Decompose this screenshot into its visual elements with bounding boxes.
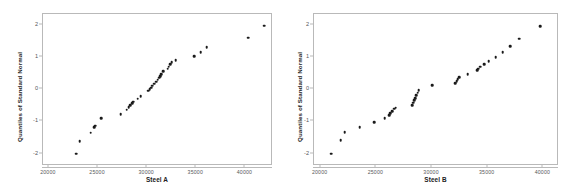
x-tick-label: 35000: [479, 169, 494, 175]
data-point: [119, 113, 122, 116]
qq-plot-figure: 2000025000300003500040000210-1-2Steel AQ…: [0, 0, 575, 194]
data-point: [413, 99, 416, 102]
y-tick-mark: [39, 55, 42, 56]
data-point: [373, 121, 376, 124]
y-tick-mark: [39, 152, 42, 153]
data-point: [417, 89, 420, 92]
data-point: [247, 37, 250, 40]
data-point: [412, 101, 415, 104]
x-tick-label: 40000: [237, 169, 252, 175]
data-point: [94, 124, 97, 127]
data-point: [479, 65, 482, 68]
y-tick-mark: [310, 23, 313, 24]
x-tick-mark: [375, 164, 376, 167]
data-point: [431, 84, 434, 87]
y-axis-label: Quantiles of Standard Normal: [16, 52, 23, 142]
y-tick-label: -2: [28, 150, 38, 156]
data-point: [125, 108, 128, 111]
x-tick-mark: [195, 164, 196, 167]
data-points-layer: [314, 14, 557, 164]
data-point: [100, 117, 103, 120]
data-point: [509, 45, 512, 48]
data-point: [89, 131, 92, 134]
data-point: [411, 104, 414, 107]
data-point: [466, 73, 469, 76]
data-point: [483, 63, 486, 66]
x-tick-label: 35000: [188, 169, 203, 175]
y-tick-label: 1: [28, 53, 38, 59]
panel-steel-a: 2000025000300003500040000210-1-2Steel AQ…: [0, 0, 287, 194]
x-axis-label: Steel B: [424, 176, 446, 183]
data-point: [494, 56, 497, 59]
data-point: [416, 91, 419, 94]
x-tick-mark: [542, 164, 543, 167]
data-point: [169, 63, 172, 66]
data-points-layer: [43, 14, 271, 164]
data-point: [137, 97, 140, 100]
y-tick-mark: [39, 23, 42, 24]
x-tick-label: 30000: [423, 169, 438, 175]
data-point: [162, 70, 165, 73]
x-tick-label: 30000: [138, 169, 153, 175]
y-tick-mark: [310, 152, 313, 153]
data-point: [456, 78, 459, 81]
data-point: [205, 46, 208, 49]
y-tick-label: 0: [28, 85, 38, 91]
data-point: [415, 94, 418, 97]
plot-frame: [313, 13, 558, 165]
y-tick-label: 2: [28, 21, 38, 27]
y-axis-label: Quantiles of Standard Normal: [296, 52, 303, 142]
y-tick-label: -1: [28, 117, 38, 123]
data-point: [518, 37, 521, 40]
x-tick-label: 20000: [312, 169, 327, 175]
y-tick-label: 2: [299, 21, 309, 27]
x-tick-label: 25000: [89, 169, 104, 175]
x-axis-label: Steel A: [146, 176, 168, 183]
x-tick-mark: [431, 164, 432, 167]
plot-frame: [42, 13, 272, 165]
data-point: [501, 51, 504, 54]
data-point: [458, 76, 461, 79]
data-point: [140, 95, 143, 98]
data-point: [488, 60, 491, 63]
y-tick-mark: [310, 55, 313, 56]
data-point: [263, 24, 266, 27]
data-point: [391, 110, 394, 113]
data-point: [199, 51, 202, 54]
data-point: [79, 140, 82, 143]
data-point: [167, 68, 170, 71]
data-point: [330, 152, 333, 155]
data-point: [339, 139, 342, 142]
data-point: [383, 117, 386, 120]
y-tick-mark: [310, 120, 313, 121]
data-point: [75, 152, 78, 155]
y-tick-label: -2: [299, 150, 309, 156]
x-tick-mark: [146, 164, 147, 167]
x-tick-label: 40000: [535, 169, 550, 175]
data-point: [193, 55, 196, 58]
x-tick-mark: [486, 164, 487, 167]
x-tick-label: 25000: [368, 169, 383, 175]
data-point: [343, 131, 346, 134]
y-tick-mark: [310, 88, 313, 89]
data-point: [477, 68, 480, 71]
panel-steel-b: 2000025000300003500040000210-1-2Steel BQ…: [288, 0, 575, 194]
data-point: [174, 59, 177, 62]
data-point: [170, 61, 173, 64]
data-point: [395, 106, 398, 109]
data-point: [539, 25, 542, 28]
y-tick-mark: [39, 88, 42, 89]
x-tick-mark: [47, 164, 48, 167]
x-tick-mark: [244, 164, 245, 167]
data-point: [414, 97, 417, 100]
x-tick-mark: [97, 164, 98, 167]
x-tick-mark: [319, 164, 320, 167]
data-point: [168, 65, 171, 68]
data-point: [132, 100, 135, 103]
data-point: [160, 73, 163, 76]
y-tick-mark: [39, 120, 42, 121]
data-point: [358, 126, 361, 129]
x-axis-line: [313, 167, 558, 168]
x-axis-line: [42, 167, 272, 168]
x-tick-label: 20000: [40, 169, 55, 175]
